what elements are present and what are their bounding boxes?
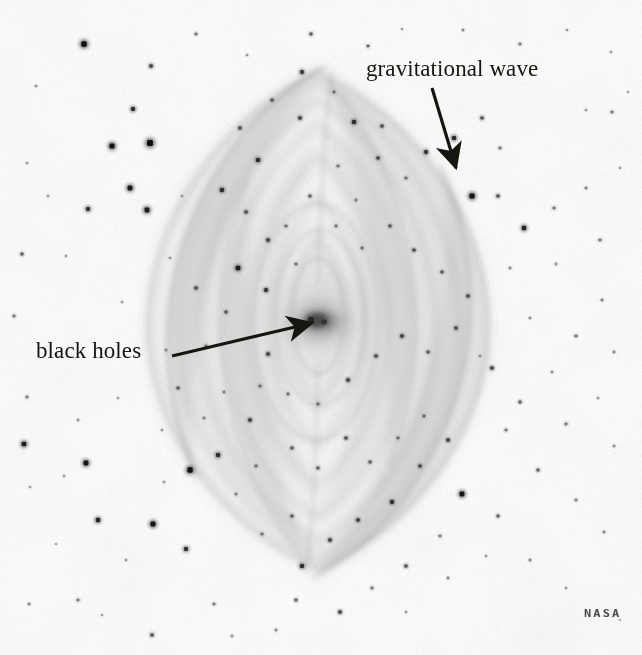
black-holes-core (274, 292, 362, 352)
sky-canvas (0, 0, 642, 655)
nasa-watermark: NASA (584, 607, 621, 620)
astronomy-illustration: gravitational wave black holes NASA (0, 0, 642, 655)
black-holes-label: black holes (36, 338, 141, 364)
gravitational-wave-label: gravitational wave (366, 56, 538, 82)
